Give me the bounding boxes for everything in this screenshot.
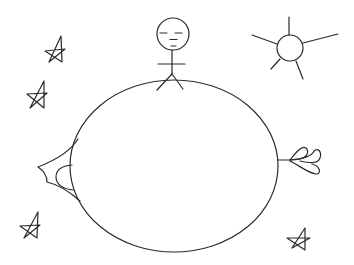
right-flower	[278, 147, 321, 174]
star-icon	[45, 36, 65, 62]
sun-icon	[252, 17, 338, 79]
doodle-svg	[0, 0, 354, 265]
star-icon	[20, 212, 40, 238]
stick-figure	[157, 18, 189, 90]
star-icon	[27, 81, 47, 108]
right-leg	[172, 74, 183, 89]
drawing-canvas: Hand-drawn doodle: stick figure standing…	[0, 0, 354, 265]
left-fin	[38, 139, 80, 201]
head-icon	[157, 18, 189, 50]
star-icon	[287, 228, 310, 250]
left-leg	[157, 74, 172, 90]
planet-ellipse	[70, 80, 278, 252]
